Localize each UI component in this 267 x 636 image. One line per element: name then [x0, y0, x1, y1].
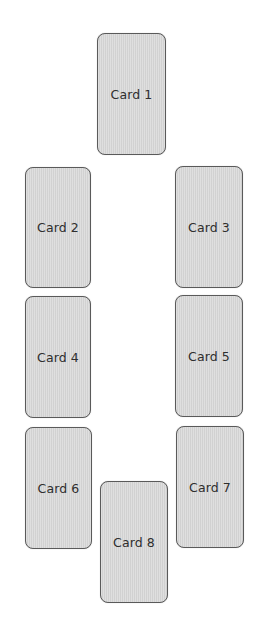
card-label: Card 5 — [188, 349, 230, 364]
card-label: Card 2 — [37, 220, 79, 235]
card-4: Card 4 — [25, 296, 91, 418]
card-7: Card 7 — [176, 426, 244, 548]
card-label: Card 4 — [37, 350, 79, 365]
card-label: Card 6 — [38, 481, 80, 496]
card-label: Card 7 — [189, 480, 231, 495]
card-2: Card 2 — [25, 167, 91, 288]
card-3: Card 3 — [175, 166, 243, 288]
card-5: Card 5 — [175, 295, 243, 417]
card-1: Card 1 — [97, 33, 166, 155]
card-8: Card 8 — [100, 481, 168, 603]
card-label: Card 8 — [113, 535, 155, 550]
card-label: Card 3 — [188, 220, 230, 235]
card-label: Card 1 — [111, 87, 153, 102]
card-6: Card 6 — [25, 427, 92, 549]
